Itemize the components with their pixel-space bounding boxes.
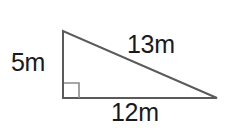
label-hypotenuse: 13m [127, 32, 175, 57]
label-vertical-leg: 5m [11, 50, 45, 75]
right-triangle-figure: 5m 13m 12m [0, 0, 237, 134]
label-base: 12m [111, 100, 159, 125]
